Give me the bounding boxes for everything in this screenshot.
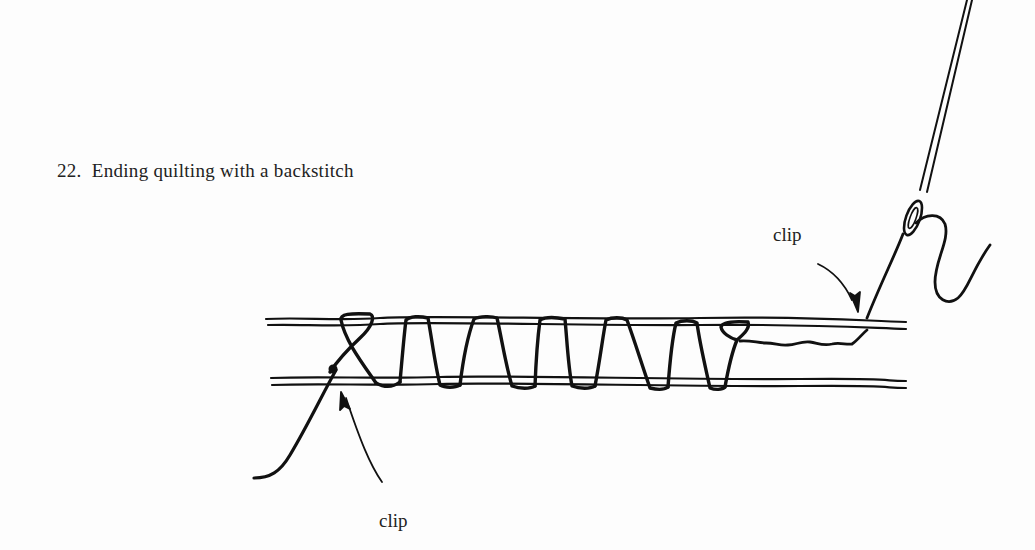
fabric-layer-bottom xyxy=(271,377,906,388)
needle xyxy=(900,0,972,237)
thread-loop xyxy=(916,216,990,302)
arrow-clip-bottom xyxy=(340,392,382,482)
needle-thread xyxy=(867,234,903,318)
backstitch-illustration xyxy=(0,0,1035,550)
arrow-clip-top xyxy=(818,264,860,312)
thread-tail xyxy=(254,370,336,478)
buried-thread xyxy=(740,330,867,345)
backstitch-knot xyxy=(330,366,336,372)
fabric-layer-top xyxy=(266,317,906,329)
